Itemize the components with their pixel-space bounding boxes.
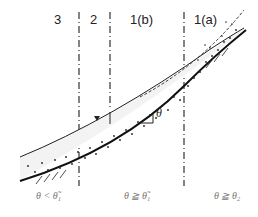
zone-label-2: 2 [90,12,97,27]
zone-label-1b: 1(b) [130,12,153,27]
bed-hatching [36,48,228,184]
debris-flow-layer [20,28,244,180]
angle-theta-label: θ [156,106,162,121]
upper-dashed-band [140,10,244,97]
slope-zone-diagram: 3 2 1(b) 1(a) θ θ < θ̃₁ θ ≧ θ̃₁ θ ≧ θ₂ [0,0,258,217]
zone-label-1a: 1(a) [194,12,217,27]
diagram-graphic [0,0,258,217]
condition-zone-3: θ < θ̃₁ [36,190,61,201]
zone-label-3: 3 [54,12,61,27]
condition-zone-1a: θ ≧ θ₂ [214,190,240,201]
condition-zone-1b: θ ≧ θ̃₁ [124,190,150,201]
